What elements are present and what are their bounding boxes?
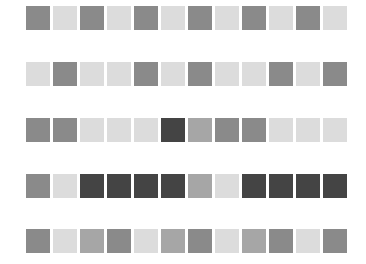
square-r4-c2 — [53, 174, 77, 198]
square-r3-c11 — [296, 118, 320, 142]
square-r1-c6 — [161, 6, 185, 30]
square-r1-c9 — [242, 6, 266, 30]
square-r2-c7 — [188, 62, 212, 86]
square-r2-c10 — [269, 62, 293, 86]
square-r1-c5 — [134, 6, 158, 30]
square-r5-c11 — [296, 229, 320, 253]
square-r2-c6 — [161, 62, 185, 86]
square-r3-c10 — [269, 118, 293, 142]
square-r2-c9 — [242, 62, 266, 86]
square-r1-c2 — [53, 6, 77, 30]
square-r2-c1 — [26, 62, 50, 86]
square-r4-c8 — [215, 174, 239, 198]
square-r4-c4 — [107, 174, 131, 198]
square-r1-c10 — [269, 6, 293, 30]
square-r2-c4 — [107, 62, 131, 86]
square-r4-c9 — [242, 174, 266, 198]
square-r5-c8 — [215, 229, 239, 253]
square-r5-c9 — [242, 229, 266, 253]
square-r3-c5 — [134, 118, 158, 142]
square-r4-c11 — [296, 174, 320, 198]
grid-row-2 — [26, 62, 347, 86]
grid-row-5 — [26, 229, 347, 253]
square-r5-c7 — [188, 229, 212, 253]
square-r2-c12 — [323, 62, 347, 86]
square-r4-c5 — [134, 174, 158, 198]
square-r2-c2 — [53, 62, 77, 86]
square-r3-c7 — [188, 118, 212, 142]
square-r5-c4 — [107, 229, 131, 253]
square-r1-c11 — [296, 6, 320, 30]
square-r3-c12 — [323, 118, 347, 142]
square-r2-c3 — [80, 62, 104, 86]
square-r5-c1 — [26, 229, 50, 253]
square-r1-c7 — [188, 6, 212, 30]
square-r4-c3 — [80, 174, 104, 198]
square-r3-c1 — [26, 118, 50, 142]
square-r5-c6 — [161, 229, 185, 253]
square-r4-c12 — [323, 174, 347, 198]
square-r2-c5 — [134, 62, 158, 86]
square-r5-c3 — [80, 229, 104, 253]
square-r5-c10 — [269, 229, 293, 253]
square-grid — [0, 0, 366, 264]
grid-row-3 — [26, 118, 347, 142]
square-r2-c11 — [296, 62, 320, 86]
square-r3-c6 — [161, 118, 185, 142]
square-r4-c6 — [161, 174, 185, 198]
square-r3-c2 — [53, 118, 77, 142]
square-r1-c4 — [107, 6, 131, 30]
square-r1-c8 — [215, 6, 239, 30]
square-r1-c3 — [80, 6, 104, 30]
square-r1-c1 — [26, 6, 50, 30]
grid-row-4 — [26, 174, 347, 198]
square-r2-c8 — [215, 62, 239, 86]
square-r4-c1 — [26, 174, 50, 198]
square-r3-c9 — [242, 118, 266, 142]
square-r5-c12 — [323, 229, 347, 253]
square-r4-c7 — [188, 174, 212, 198]
square-r5-c5 — [134, 229, 158, 253]
square-r3-c4 — [107, 118, 131, 142]
square-r4-c10 — [269, 174, 293, 198]
square-r5-c2 — [53, 229, 77, 253]
square-r3-c3 — [80, 118, 104, 142]
square-r3-c8 — [215, 118, 239, 142]
square-r1-c12 — [323, 6, 347, 30]
grid-row-1 — [26, 6, 347, 30]
